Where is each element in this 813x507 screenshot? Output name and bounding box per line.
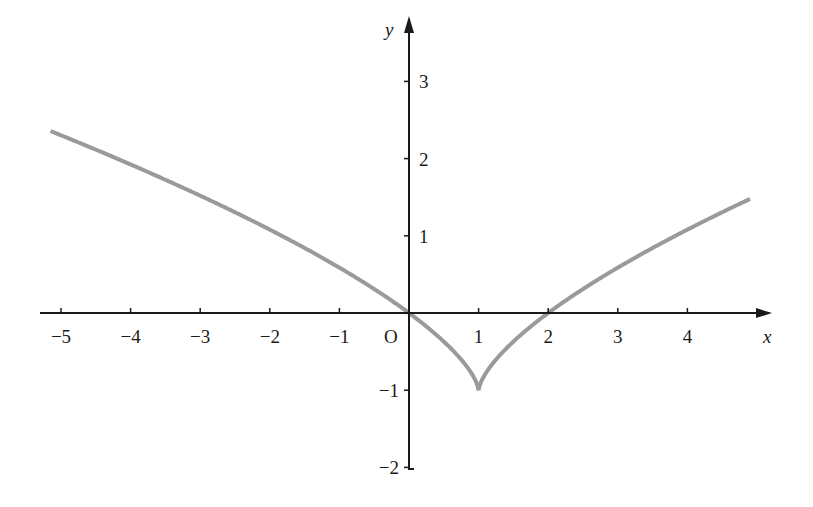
x-tick-label: −1 bbox=[329, 326, 349, 347]
x-tick-label: 1 bbox=[474, 326, 484, 347]
x-tick-label: 4 bbox=[683, 326, 693, 347]
function-plot: −5−4−3−2−11234321−1−2 x y O bbox=[0, 0, 813, 507]
y-tick-label: −2 bbox=[379, 457, 399, 478]
x-tick-label: 2 bbox=[543, 326, 553, 347]
y-tick-label: 3 bbox=[419, 71, 429, 92]
y-tick-label: 1 bbox=[419, 226, 429, 247]
x-axis-arrow-icon bbox=[756, 308, 772, 318]
x-axis-label: x bbox=[762, 326, 772, 347]
x-tick-label: −3 bbox=[190, 326, 210, 347]
curve-line bbox=[51, 131, 750, 390]
x-tick-label: 3 bbox=[613, 326, 623, 347]
origin-label: O bbox=[384, 326, 398, 347]
x-tick-label: −5 bbox=[51, 326, 71, 347]
y-axis-label: y bbox=[383, 19, 394, 40]
function-curve bbox=[51, 131, 750, 390]
x-tick-label: −4 bbox=[120, 326, 141, 347]
ticks: −5−4−3−2−11234321−1−2 bbox=[51, 71, 693, 478]
y-tick-label: 2 bbox=[419, 149, 429, 170]
x-tick-label: −2 bbox=[260, 326, 280, 347]
y-axis-arrow-icon bbox=[404, 16, 414, 33]
y-tick-label: −1 bbox=[379, 380, 399, 401]
